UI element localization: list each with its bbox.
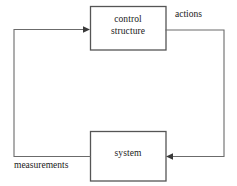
actions-edge-label: actions: [175, 9, 202, 20]
actions-connector: [166, 30, 224, 157]
control-loop-diagram: control structure system actions measure…: [0, 0, 237, 186]
control-structure-label: control structure: [90, 14, 166, 37]
measurements-connector: [14, 30, 90, 157]
measurements-edge-label: measurements: [14, 160, 68, 171]
system-label: system: [90, 148, 166, 160]
measurements-arrowhead-icon: [83, 26, 90, 32]
actions-arrowhead-icon: [166, 153, 173, 159]
